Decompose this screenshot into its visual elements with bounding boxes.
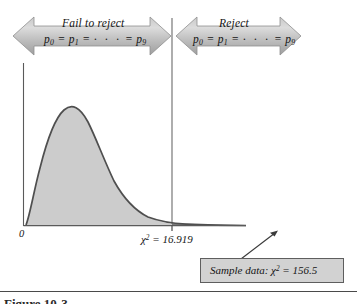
caption-divider-rule <box>0 291 357 292</box>
sample-data-callout: Sample data: χ2 = 156.5 <box>200 258 344 283</box>
hyp-eq1-left: = <box>57 33 68 45</box>
hyp-eq1-right: = <box>206 33 217 45</box>
fail-to-reject-hypothesis: p0 = p1 = · · · = p9 <box>44 33 146 47</box>
hyp-p9-left: p9 <box>136 33 146 45</box>
reject-hypothesis: p0 = p1 = · · · = p9 <box>193 33 295 47</box>
chi-equals-critical: = 16.919 <box>152 233 192 245</box>
chi-square-hypothesis-figure: Fail to reject p0 = p1 = · · · = p9 Reje… <box>0 0 357 304</box>
figure-caption: Figure 10-3 <box>4 296 154 304</box>
critical-value-label: χ2 = 16.919 <box>141 233 193 245</box>
distribution-body-area <box>26 107 172 225</box>
hyp-p1-right: p1 <box>218 33 228 45</box>
fail-to-reject-label: Fail to reject <box>62 17 124 30</box>
chi-equals-sample: = 156.5 <box>282 264 317 276</box>
hyp-p1-left: p1 <box>69 33 79 45</box>
axis-origin-label: 0 <box>19 228 24 240</box>
hyp-ellipsis-left: · · · <box>93 33 121 45</box>
hyp-eq2-left: = <box>82 33 93 45</box>
hyp-p0-right: p0 <box>193 33 203 45</box>
hyp-ellipsis-right: · · · <box>242 33 270 45</box>
hyp-eq3-right: = <box>274 33 285 45</box>
hyp-eq3-left: = <box>125 33 136 45</box>
sample-data-prefix: Sample data: <box>210 264 271 276</box>
hyp-p9-right: p9 <box>285 33 295 45</box>
reject-label: Reject <box>219 17 249 30</box>
hyp-eq2-right: = <box>231 33 242 45</box>
hyp-p0-left: p0 <box>44 33 54 45</box>
sample-data-label: Sample data: χ2 = 156.5 <box>210 264 317 276</box>
chi-symbol-critical: χ2 <box>141 233 149 245</box>
chi-symbol-sample: χ2 <box>271 264 279 276</box>
